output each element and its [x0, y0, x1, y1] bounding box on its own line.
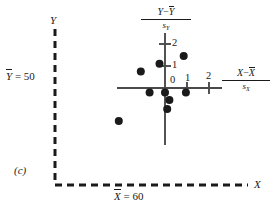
outer-x-axis-letter: X: [254, 178, 261, 190]
figure-canvas: [0, 0, 276, 212]
y-mean-label: Y = 50: [6, 70, 35, 82]
outer-y-axis-letter: Y: [50, 14, 56, 26]
inner-x-axis-label: X−X sX: [222, 68, 270, 92]
denominator-subscript: Y: [166, 25, 169, 31]
inner-x-axis-label-numerator: X−X: [222, 68, 270, 78]
numerator-term-b: Y: [169, 7, 175, 17]
numerator-term-b: X: [249, 68, 255, 78]
y-mean-symbol: Y: [6, 70, 12, 82]
inner-origin-tick-label: 0: [170, 74, 175, 85]
data-point: [182, 88, 190, 96]
x-mean-symbol: X: [114, 190, 121, 202]
data-point: [163, 105, 171, 113]
data-point: [180, 52, 188, 60]
data-point: [165, 96, 173, 104]
inner-y-axis-label-numerator: Y−Y: [141, 7, 191, 17]
data-point: [146, 88, 154, 96]
y-mean-equals: =: [12, 70, 24, 82]
inner-x-axis-label-denominator: sX: [222, 82, 270, 92]
x-mean-label: X = 60: [114, 190, 143, 202]
denominator-subscript: X: [246, 86, 250, 92]
inner-x-tick-label-1: 1: [185, 72, 190, 83]
data-point: [137, 68, 145, 76]
data-point: [115, 117, 123, 125]
panel-letter: (c): [14, 164, 26, 176]
data-point: [161, 88, 169, 96]
inner-y-tick-label-2: 2: [172, 37, 177, 48]
inner-x-tick-label-2: 2: [206, 70, 211, 81]
figure-panel-c: Y X (c) Y = 50 X = 60 Y−Y sY X−X sX 2 1 …: [0, 0, 276, 212]
y-mean-value: 50: [24, 70, 35, 82]
fraction-bar: [222, 80, 270, 81]
inner-y-tick-label-1: 1: [172, 59, 177, 70]
inner-y-axis-label-denominator: sY: [141, 21, 191, 31]
inner-y-axis-label: Y−Y sY: [141, 7, 191, 31]
data-point: [156, 60, 164, 68]
x-mean-equals: =: [121, 190, 133, 202]
x-mean-value: 60: [132, 190, 143, 202]
